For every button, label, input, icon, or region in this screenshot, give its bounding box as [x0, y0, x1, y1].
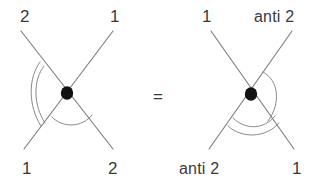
right-vertex-diagram	[209, 31, 294, 149]
right-diagram-label-bottom-left: anti 2	[179, 161, 219, 177]
left-diagram-vertex-dot	[61, 86, 73, 100]
right-diagram-label-top-left: 1	[202, 8, 212, 25]
left-diagram-label-top-left: 2	[20, 8, 30, 25]
right-diagram-vertex-dot	[245, 87, 257, 101]
left-diagram-label-bottom-right: 2	[108, 160, 118, 177]
left-diagram-label-top-right: 1	[110, 8, 120, 25]
left-diagram-label-bottom-left: 1	[22, 160, 32, 177]
left-diagram-left-angle-arc-inner	[36, 66, 45, 123]
left-vertex-diagram	[21, 31, 113, 149]
left-diagram-bottom-angle-arc	[52, 115, 92, 125]
right-diagram-label-bottom-right: 1	[292, 160, 302, 177]
equals-sign: =	[153, 88, 163, 105]
right-diagram-bottom-angle-arc-inner	[233, 116, 275, 127]
right-diagram-bottom-angle-arc-outer	[228, 123, 279, 135]
right-diagram-label-top-right: anti 2	[254, 9, 294, 25]
figure-root: 2 1 1 2 = 1 anti 2 anti 2 1	[0, 0, 320, 187]
